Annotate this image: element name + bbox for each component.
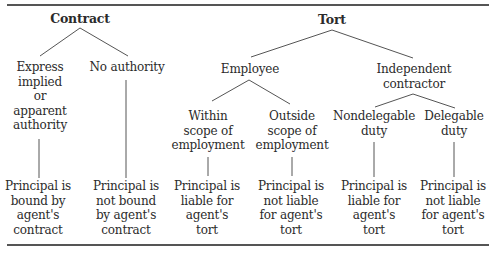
node-delegable-duty: Delegable duty (424, 109, 483, 138)
node-within-scope: Within scope of employment (171, 109, 244, 153)
node-express-implied-apparent-authority: Express implied or apparent authority (13, 60, 67, 133)
outcome-not-bound-by-contract: Principal is not bound by agent's contra… (93, 179, 159, 237)
outcome-liable-employee-tort: Principal is liable for agent's tort (174, 179, 240, 237)
node-employee: Employee (221, 62, 279, 77)
connector-contract-noauthority (80, 28, 128, 56)
connector-tort-employee (251, 30, 332, 57)
node-outside-scope: Outside scope of employment (255, 109, 328, 153)
outcome-liable-contractor-tort: Principal is liable for agent's tort (341, 179, 407, 237)
connector-contractor-nondelegable (375, 94, 413, 107)
node-no-authority: No authority (90, 60, 165, 75)
connector-contract-authority (40, 28, 80, 56)
root-contract: Contract (50, 12, 110, 27)
outcome-not-liable-contractor-tort: Principal is not liable for agent's tort (420, 179, 486, 237)
connector-contractor-delegable (413, 94, 455, 108)
outcome-bound-by-contract: Principal is bound by agent's contract (5, 179, 71, 237)
node-nondelegable-duty: Nondelegable duty (333, 109, 415, 138)
connector-employee-within (212, 80, 249, 101)
connector-employee-outside (249, 80, 290, 104)
outcome-not-liable-employee-tort: Principal is not liable for agent's tort (258, 179, 324, 237)
node-independent-contractor: Independent contractor (377, 62, 452, 91)
connector-tort-contractor (332, 30, 413, 58)
root-tort: Tort (318, 13, 346, 28)
